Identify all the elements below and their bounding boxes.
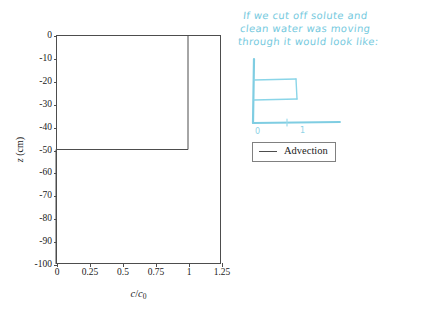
annotation-line-1: If we cut off solute and (242, 10, 368, 21)
annotation-line-2: clean water was moving (239, 23, 371, 34)
sketch-axis-label-0: 0 (255, 127, 260, 136)
handwritten-annotation: If we cut off solute and clean water was… (0, 0, 430, 315)
annotation-line-3: through it would look like: (237, 36, 379, 47)
figure-canvas: 0-10-20-30-40-50-60-70-80-90-10000.250.5… (0, 0, 430, 315)
sketch-axis-label-1: 1 (300, 126, 305, 135)
